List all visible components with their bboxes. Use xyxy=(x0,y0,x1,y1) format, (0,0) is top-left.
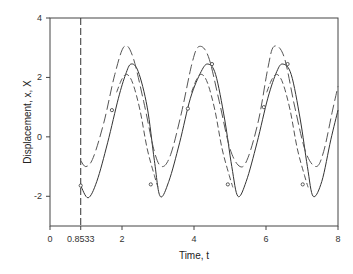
x-tick-label: 2 xyxy=(119,234,124,244)
circle-marker xyxy=(79,184,82,187)
y-tick-label: 2 xyxy=(37,72,42,82)
x-tick-label: 8 xyxy=(335,234,340,244)
circle-marker xyxy=(110,109,113,112)
circle-marker xyxy=(262,106,265,109)
x-axis-ticks: 00.85332468 xyxy=(47,226,340,244)
plot-frame xyxy=(50,18,338,226)
y-tick-label: -2 xyxy=(34,191,42,201)
y-tick-label: 4 xyxy=(37,13,42,23)
inner-dashed-curve xyxy=(117,74,158,187)
x-tick-label: 0.8533 xyxy=(67,234,95,244)
y-axis-title: Displacement, x, X xyxy=(22,80,33,164)
upper-dashed-curve-x xyxy=(81,46,338,167)
x-tick-label: 0 xyxy=(47,234,52,244)
x-axis-title: Time, t xyxy=(179,250,209,261)
plot-border xyxy=(50,18,338,226)
displacement-time-chart: 00.85332468 -2024 Time, t Displacement, … xyxy=(0,0,353,274)
circle-marker xyxy=(226,183,229,186)
solid-curve-X xyxy=(81,64,338,198)
circle-marker xyxy=(301,183,304,186)
circle-marker xyxy=(186,107,189,110)
y-axis-ticks: -2024 xyxy=(34,13,50,201)
y-tick-label: 0 xyxy=(37,132,42,142)
x-tick-label: 4 xyxy=(191,234,196,244)
x-tick-label: 6 xyxy=(263,234,268,244)
circle-marker xyxy=(149,183,152,186)
data-series xyxy=(79,46,338,198)
